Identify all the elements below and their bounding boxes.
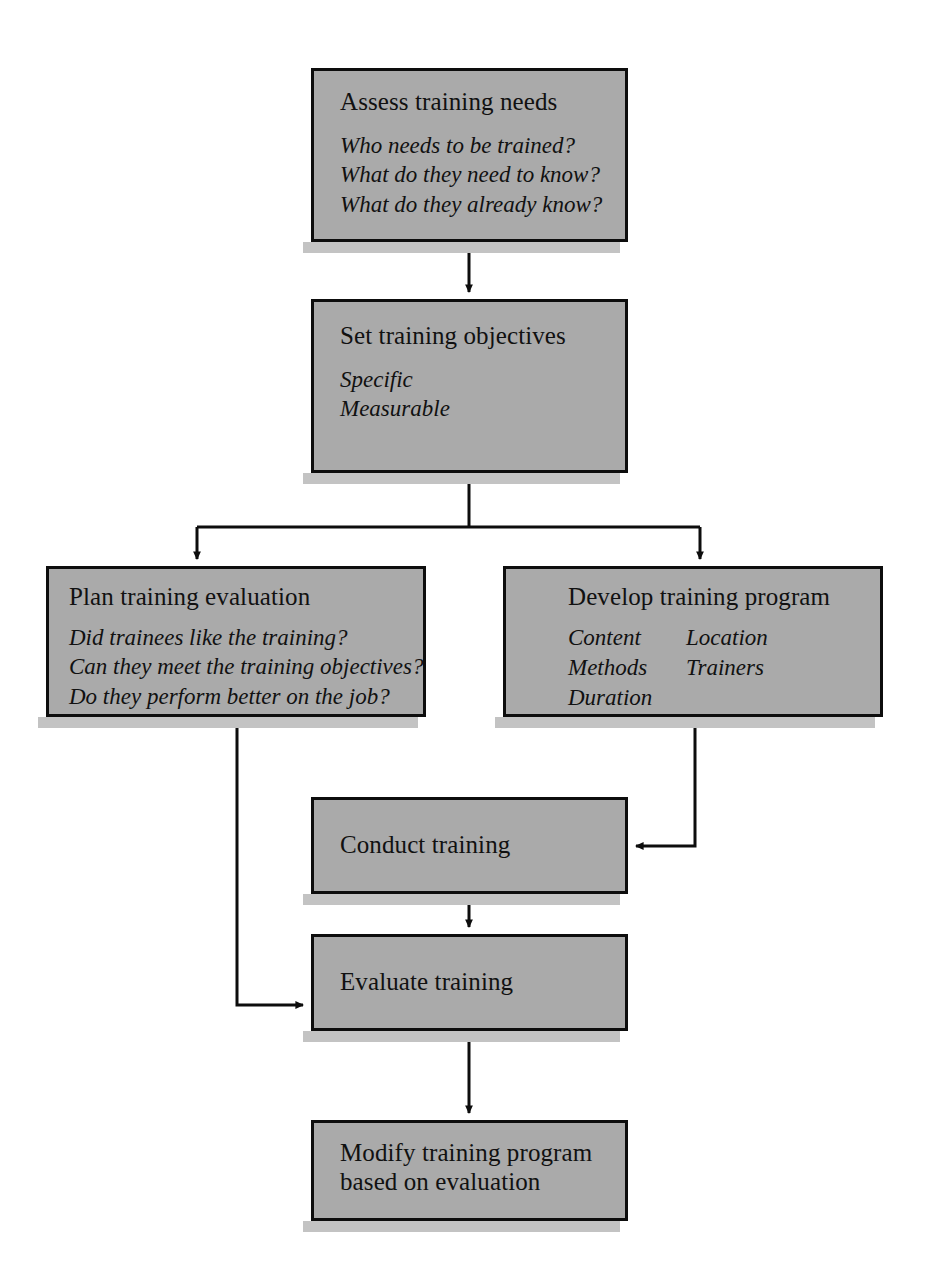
node-conduct-training[interactable]: Conduct training xyxy=(311,797,628,894)
node-title: Conduct training xyxy=(340,831,651,860)
box-shadow xyxy=(303,1031,620,1042)
node-subtext: Specific Measurable xyxy=(340,365,651,424)
node-title: Modify training program based on evaluat… xyxy=(340,1139,651,1197)
node-develop-training-program[interactable]: Develop training program Content Methods… xyxy=(503,566,883,717)
node-subtext: Did trainees like the training? Can they… xyxy=(69,623,443,711)
node-subtext-column-1: Content Methods Duration xyxy=(568,623,686,713)
box-shadow xyxy=(38,717,418,728)
node-plan-training-evaluation[interactable]: Plan training evaluation Did trainees li… xyxy=(46,566,426,717)
node-modify-training-program[interactable]: Modify training program based on evaluat… xyxy=(311,1120,628,1221)
node-subtext: Who needs to be trained? What do they ne… xyxy=(340,131,651,219)
edge-plan-eval-to-evaluate xyxy=(237,717,303,1005)
node-subtext-column-2: Location Trainers xyxy=(686,623,768,713)
node-title: Assess training needs xyxy=(340,88,651,117)
node-title: Plan training evaluation xyxy=(69,583,443,612)
node-title: Evaluate training xyxy=(340,968,651,997)
box-shadow xyxy=(303,242,620,253)
node-evaluate-training[interactable]: Evaluate training xyxy=(311,934,628,1031)
box-shadow xyxy=(495,717,875,728)
node-set-training-objectives[interactable]: Set training objectives Specific Measura… xyxy=(311,299,628,473)
box-shadow xyxy=(303,473,620,484)
box-shadow xyxy=(303,894,620,905)
box-shadow xyxy=(303,1221,620,1232)
node-title: Develop training program xyxy=(568,583,929,612)
node-assess-training-needs[interactable]: Assess training needs Who needs to be tr… xyxy=(311,68,628,242)
node-title: Set training objectives xyxy=(340,322,651,351)
